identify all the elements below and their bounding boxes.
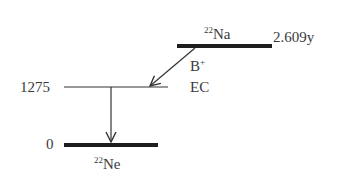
daughter-nuclide-label: 22Ne bbox=[94, 156, 121, 172]
half-life-label: 2.609y bbox=[273, 30, 314, 45]
parent-symbol: Na bbox=[213, 26, 231, 42]
level-energy-0: 0 bbox=[46, 137, 54, 152]
level-energy-1275: 1275 bbox=[20, 80, 50, 95]
ec-label: EC bbox=[190, 80, 209, 95]
beta-charge: + bbox=[200, 57, 205, 67]
beta-symbol: B bbox=[190, 58, 200, 74]
daughter-symbol: Ne bbox=[103, 156, 121, 172]
parent-nuclide-label: 22Na bbox=[204, 26, 231, 42]
daughter-mass-number: 22 bbox=[94, 155, 103, 165]
beta-plus-label: B+ bbox=[190, 58, 205, 74]
ground-level-bar bbox=[64, 143, 158, 147]
parent-mass-number: 22 bbox=[204, 25, 213, 35]
beta-plus-ec-arrow bbox=[150, 48, 195, 86]
parent-level-bar bbox=[177, 44, 272, 48]
